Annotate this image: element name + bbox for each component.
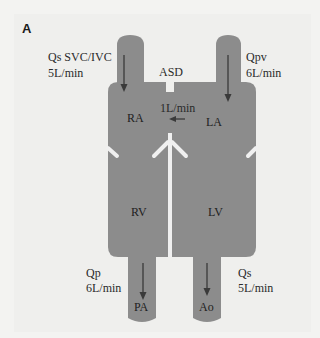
svc-ivc-label: Qs SVC/IVC — [48, 50, 112, 65]
qs-out-label: Qs — [238, 266, 251, 281]
panel-label: A — [22, 21, 31, 36]
svc-ivc-flow: 5L/min — [48, 66, 83, 81]
chamber-ra: RA — [127, 111, 144, 126]
qp-label: Qp — [86, 266, 101, 281]
septum — [168, 133, 172, 257]
vessel-ao: Ao — [199, 300, 214, 315]
qs-out-flow: 5L/min — [238, 281, 273, 296]
chamber-la: LA — [206, 115, 222, 130]
chamber-rv: RV — [131, 205, 147, 220]
asd-gap — [166, 82, 174, 92]
asd-label: ASD — [159, 65, 183, 80]
chamber-lv: LV — [208, 205, 223, 220]
svc-ivc-vessel — [117, 35, 144, 84]
qp-flow: 6L/min — [86, 281, 121, 296]
pulmonary-vein-flow: 6L/min — [246, 66, 281, 81]
vessel-pa: PA — [134, 300, 148, 315]
pulmonary-vein-label: Qpv — [246, 50, 267, 65]
asd-flow: 1L/min — [160, 101, 195, 116]
